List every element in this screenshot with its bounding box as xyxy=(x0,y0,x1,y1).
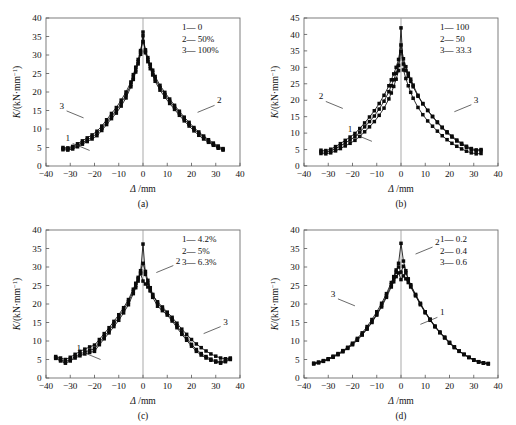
y-tick-label: 15 xyxy=(32,318,42,328)
data-point-marker xyxy=(348,142,352,146)
data-point-marker xyxy=(465,145,469,149)
curve-callout-3: 3 xyxy=(331,289,336,299)
data-point-marker xyxy=(149,63,153,67)
legend-entry-3: 3— 0.6 xyxy=(440,257,468,267)
data-point-marker xyxy=(421,102,425,106)
legend-entry-3: 3— 33.3 xyxy=(440,45,472,55)
data-point-marker xyxy=(93,343,97,347)
data-point-marker xyxy=(356,337,360,341)
callout-leader-line xyxy=(454,105,471,112)
data-point-marker xyxy=(83,347,87,351)
x-tick-label: 40 xyxy=(235,169,245,179)
legend-entry-1: 1— 100 xyxy=(440,22,470,32)
legend-entry-3: 3— 100% xyxy=(182,45,219,55)
data-point-marker xyxy=(139,272,143,276)
data-point-marker xyxy=(477,360,481,364)
y-tick-label: 20 xyxy=(290,299,300,309)
data-point-marker xyxy=(64,358,68,362)
data-point-marker xyxy=(399,26,403,30)
data-point-marker xyxy=(212,141,216,145)
data-point-marker xyxy=(365,325,369,329)
data-point-marker xyxy=(431,115,435,119)
y-tick-label: 30 xyxy=(290,262,300,272)
y-tick-label: 25 xyxy=(290,79,300,89)
data-point-marker xyxy=(216,144,220,148)
data-point-marker xyxy=(204,355,208,359)
y-tick-label: 10 xyxy=(290,128,300,138)
data-point-marker xyxy=(382,99,386,103)
data-point-marker xyxy=(149,289,153,293)
data-point-marker xyxy=(207,138,211,142)
data-point-marker xyxy=(170,316,174,320)
y-tick-label: 20 xyxy=(290,95,300,105)
data-point-marker xyxy=(144,270,148,274)
y-axis-label: K/(kN·mm−1) xyxy=(269,278,281,331)
y-tick-label: 5 xyxy=(295,145,300,155)
data-point-marker xyxy=(368,120,372,124)
data-point-marker xyxy=(421,113,425,117)
data-point-marker xyxy=(440,125,444,129)
x-tick-label: −10 xyxy=(112,169,127,179)
y-tick-label: 20 xyxy=(32,87,42,97)
data-point-marker xyxy=(61,146,65,150)
data-point-marker xyxy=(134,65,138,69)
chart-panel-d: −40−30−20−100102030400510152025303540Δ /… xyxy=(258,212,516,424)
data-point-marker xyxy=(178,109,182,113)
data-point-marker xyxy=(370,318,374,322)
data-point-marker xyxy=(373,114,377,118)
callout-leader-line xyxy=(326,101,343,108)
data-point-marker xyxy=(312,361,316,365)
data-point-marker xyxy=(146,56,150,60)
y-tick-label: 5 xyxy=(37,143,42,153)
data-point-marker xyxy=(392,275,396,279)
data-point-marker xyxy=(329,149,333,153)
x-tick-label: −20 xyxy=(345,169,360,179)
data-point-marker xyxy=(445,138,449,142)
x-tick-label: −30 xyxy=(321,381,336,391)
x-tick-label: −30 xyxy=(321,169,336,179)
data-point-marker xyxy=(411,85,415,89)
x-axis-label: Δ /mm xyxy=(387,395,414,406)
data-point-marker xyxy=(440,134,444,138)
y-tick-label: 40 xyxy=(32,225,42,235)
legend-entry-2: 2— 5% xyxy=(182,246,210,256)
data-point-marker xyxy=(385,292,389,296)
data-point-marker xyxy=(470,151,474,155)
x-tick-label: −10 xyxy=(370,169,385,179)
callout-leader-line xyxy=(204,327,221,334)
data-point-marker xyxy=(397,262,401,266)
data-point-marker xyxy=(166,310,170,314)
x-tick-label: 30 xyxy=(469,169,479,179)
y-tick-label: 35 xyxy=(32,32,42,42)
panel-caption: (b) xyxy=(395,199,406,210)
x-tick-label: 10 xyxy=(163,169,173,179)
y-tick-label: 35 xyxy=(32,244,42,254)
data-point-marker xyxy=(399,43,403,47)
data-point-marker xyxy=(390,281,394,285)
data-point-marker xyxy=(390,84,394,88)
curve-callout-2: 2 xyxy=(176,256,181,266)
data-point-marker xyxy=(199,352,203,356)
data-point-marker xyxy=(426,109,430,113)
data-point-marker xyxy=(195,348,199,352)
data-point-marker xyxy=(399,278,403,282)
data-point-marker xyxy=(373,120,377,124)
data-point-marker xyxy=(163,91,167,95)
data-point-marker xyxy=(339,144,343,148)
data-point-marker xyxy=(105,118,109,122)
data-point-marker xyxy=(373,109,377,113)
data-point-marker xyxy=(219,360,223,364)
data-point-marker xyxy=(144,48,148,52)
data-point-marker xyxy=(88,345,92,349)
data-point-marker xyxy=(377,107,381,111)
data-point-marker xyxy=(382,106,386,110)
data-point-marker xyxy=(394,72,398,76)
x-tick-label: −30 xyxy=(63,169,78,179)
y-tick-label: 5 xyxy=(295,355,300,365)
y-tick-label: 35 xyxy=(290,244,300,254)
y-tick-label: 15 xyxy=(32,106,42,116)
x-tick-label: −20 xyxy=(345,381,360,391)
callout-leader-line xyxy=(67,111,84,118)
data-point-marker xyxy=(424,310,428,314)
data-point-marker xyxy=(438,330,442,334)
